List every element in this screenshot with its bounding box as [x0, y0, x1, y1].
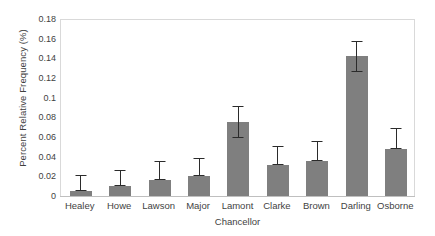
- x-axis-tick-label: Major: [178, 199, 217, 213]
- y-axis-tick-label: 0: [26, 191, 56, 201]
- x-axis-tick-label: Healey: [60, 199, 99, 213]
- y-axis-tick-label: 0.18: [26, 14, 56, 24]
- error-bar: [194, 158, 205, 177]
- error-bar-stem: [277, 146, 278, 165]
- bar: [109, 186, 131, 196]
- error-bar-stem: [356, 41, 357, 72]
- error-bar-stem: [238, 106, 239, 138]
- y-axis-tick-label: 0.16: [26, 34, 56, 44]
- error-bar-cap-bottom: [312, 160, 323, 161]
- error-bar-cap-top: [391, 128, 402, 129]
- bar-group: [298, 20, 337, 196]
- error-bar: [154, 161, 165, 181]
- bar-chart: Percent Relative Frequency (%) 00.020.04…: [0, 0, 435, 236]
- error-bar-cap-top: [272, 146, 283, 147]
- bar-group: [219, 20, 258, 196]
- bar: [385, 149, 407, 196]
- x-axis-tick-labels: HealeyHoweLawsonMajorLamontClarkeBrownDa…: [60, 199, 415, 215]
- error-bar-cap-bottom: [194, 175, 205, 176]
- y-axis-tick-label: 0.08: [26, 112, 56, 122]
- error-bar-cap-top: [351, 41, 362, 42]
- x-axis-tick-label: Brown: [297, 199, 336, 213]
- error-bar-cap-bottom: [233, 137, 244, 138]
- bar-group: [337, 20, 376, 196]
- bar-group: [258, 20, 297, 196]
- error-bar-cap-top: [194, 158, 205, 159]
- error-bar-cap-bottom: [115, 185, 126, 186]
- error-bar: [115, 170, 126, 186]
- error-bar-cap-bottom: [154, 179, 165, 180]
- x-axis-tick-label: Osborne: [376, 199, 415, 213]
- x-axis-title: Chancellor: [60, 215, 415, 229]
- bar: [346, 56, 368, 196]
- bar-group: [100, 20, 139, 196]
- error-bar-cap-top: [233, 106, 244, 107]
- y-axis-tick-label: 0.12: [26, 73, 56, 83]
- error-bar-stem: [159, 161, 160, 181]
- y-axis-tick-label: 0.02: [26, 171, 56, 181]
- bar: [267, 165, 289, 196]
- error-bar-cap-bottom: [391, 148, 402, 149]
- y-axis-tick-label: 0.1: [26, 93, 56, 103]
- error-bar-stem: [120, 170, 121, 186]
- bar-group: [61, 20, 100, 196]
- y-axis-tick-label: 0.06: [26, 132, 56, 142]
- error-bar-cap-top: [115, 170, 126, 171]
- error-bar: [351, 41, 362, 72]
- error-bar: [75, 175, 86, 191]
- error-bar-cap-bottom: [351, 71, 362, 72]
- x-axis-line: [60, 196, 415, 197]
- x-axis-tick-label: Howe: [99, 199, 138, 213]
- bar: [188, 176, 210, 196]
- x-axis-tick-label: Darling: [336, 199, 375, 213]
- y-axis-tick-label: 0.14: [26, 53, 56, 63]
- y-axis-tick-labels: 00.020.040.060.080.10.120.140.160.18: [26, 12, 56, 202]
- y-axis-tick-label: 0.04: [26, 152, 56, 162]
- error-bar: [391, 128, 402, 149]
- x-axis-tick-label: Clarke: [257, 199, 296, 213]
- bar-group: [377, 20, 416, 196]
- error-bar-stem: [317, 141, 318, 161]
- bar-group: [140, 20, 179, 196]
- error-bar: [233, 106, 244, 138]
- bar: [149, 180, 171, 196]
- error-bar-cap-top: [312, 141, 323, 142]
- error-bar: [312, 141, 323, 161]
- error-bar-cap-bottom: [75, 190, 86, 191]
- error-bar-stem: [80, 175, 81, 191]
- x-axis-tick-label: Lawson: [139, 199, 178, 213]
- error-bar-cap-top: [154, 161, 165, 162]
- error-bar-stem: [199, 158, 200, 177]
- plot-area: [60, 19, 415, 196]
- bar-group: [179, 20, 218, 196]
- error-bar-stem: [396, 128, 397, 149]
- bar: [306, 161, 328, 196]
- error-bar-cap-top: [75, 175, 86, 176]
- x-axis-tick-label: Lamont: [218, 199, 257, 213]
- error-bar-cap-bottom: [272, 164, 283, 165]
- error-bar: [272, 146, 283, 165]
